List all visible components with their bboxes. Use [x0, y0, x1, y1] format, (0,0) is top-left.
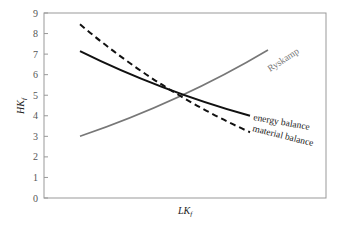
plot-frame [44, 13, 326, 198]
y-axis-label: HKf [15, 97, 28, 115]
series-lines [80, 24, 268, 136]
y-tick-label: 6 [33, 69, 38, 80]
y-axis: 0123456789 [33, 8, 48, 204]
ryskamp-label: Ryskamp [266, 46, 301, 74]
y-tick-label: 0 [33, 193, 38, 204]
x-axis-label: LKf [177, 205, 193, 218]
y-tick-label: 7 [33, 49, 38, 60]
y-tick-label: 8 [33, 28, 38, 39]
y-tick-label: 9 [33, 8, 38, 19]
y-tick-label: 1 [33, 172, 38, 183]
y-tick-label: 2 [33, 151, 38, 162]
y-tick-label: 3 [33, 131, 38, 142]
y-tick-label: 5 [33, 90, 38, 101]
material-balance-line [80, 24, 250, 132]
energy-balance-line [80, 51, 250, 116]
y-tick-label: 4 [33, 110, 38, 121]
Ryskamp-line [80, 50, 268, 136]
chart: 0123456789 HKf LKf Ryskamp energy balanc… [0, 0, 340, 229]
